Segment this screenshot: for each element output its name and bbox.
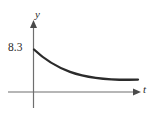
- t-axis-label: t: [143, 84, 146, 95]
- decay-curve: [34, 50, 138, 80]
- y-intercept-label: 8.3: [8, 42, 22, 54]
- exponential-decay-figure: y t 8.3: [0, 0, 153, 114]
- y-axis-label: y: [35, 9, 40, 20]
- y-axis-arrowhead: [30, 20, 37, 28]
- t-axis-arrowhead: [133, 88, 141, 95]
- graph-canvas: [0, 0, 153, 114]
